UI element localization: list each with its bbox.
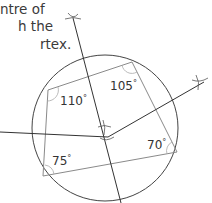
angle-arc-70 xyxy=(167,142,172,154)
bisector-line-2 xyxy=(0,132,108,137)
angle-label-70: 70° xyxy=(147,138,166,152)
angle-label-105: 105° xyxy=(110,79,137,93)
bisector-line-1 xyxy=(73,18,121,203)
cyclic-quadrilateral-diagram xyxy=(0,0,212,203)
angle-label-75: 75° xyxy=(52,154,71,168)
angle-arc-105 xyxy=(122,65,137,73)
angle-arc-110 xyxy=(47,87,58,101)
angle-label-110: 110° xyxy=(60,94,87,108)
